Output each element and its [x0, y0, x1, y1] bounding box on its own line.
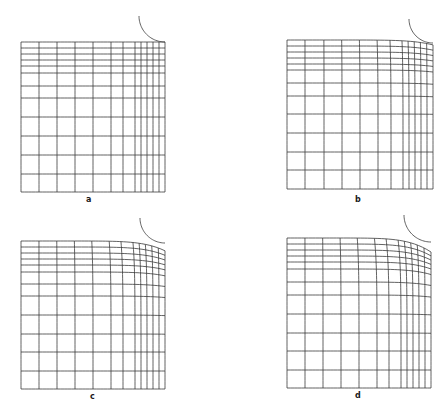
- mesh-line-vertical: [386, 239, 389, 388]
- mesh-line-vertical: [424, 248, 425, 388]
- mesh-line-vertical: [340, 238, 341, 388]
- mesh-line-horizontal: [287, 256, 431, 264]
- mesh-line-vertical: [357, 238, 359, 388]
- panel-label-d: d: [355, 391, 361, 400]
- mesh-panel-d: d: [0, 0, 446, 412]
- notch-arc: [404, 215, 431, 242]
- finite-element-mesh-figure: a b c d: [0, 0, 446, 412]
- mesh-line-horizontal: [287, 262, 431, 269]
- mesh-line-vertical: [374, 238, 377, 388]
- mesh-line-vertical: [417, 245, 419, 388]
- mesh-grid-d: [0, 0, 446, 412]
